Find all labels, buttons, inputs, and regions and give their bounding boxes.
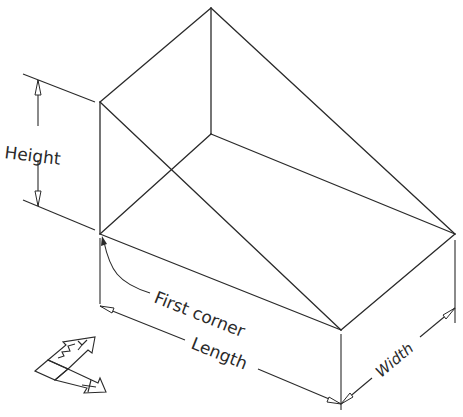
diagram-canvas: Height First corner Length Width	[0, 0, 463, 417]
length-arrow-left-icon	[100, 306, 114, 313]
edge-top-left-to-front-right	[100, 102, 341, 330]
first-corner-leader: First corner	[101, 236, 248, 341]
ucs-x-label	[82, 380, 96, 392]
ucs-y-arrow-icon	[48, 337, 95, 369]
ucs-w-mark	[58, 344, 75, 358]
first-corner-label: First corner	[152, 287, 248, 341]
edge-back-to-right	[211, 134, 455, 234]
height-dimension: Height	[4, 74, 95, 230]
edge-back-to-first-corner	[100, 134, 211, 234]
height-extension-bottom	[23, 200, 95, 230]
ucs-icon	[35, 337, 106, 393]
width-arrow-lower-icon	[341, 393, 353, 404]
height-arrow-down-icon	[35, 191, 41, 206]
edge-apex-to-right	[211, 8, 455, 234]
wedge-solid	[100, 8, 455, 330]
edge-bottom-right	[341, 234, 455, 330]
edge-top-left-to-apex	[100, 8, 211, 102]
width-label: Width	[372, 339, 417, 381]
ucs-origin-box	[35, 360, 68, 380]
width-arrow-upper-icon	[443, 308, 455, 319]
height-label: Height	[4, 142, 63, 169]
height-arrow-up-icon	[35, 80, 41, 95]
ucs-x-arrow-icon	[55, 369, 106, 393]
first-corner-leader-line	[104, 242, 150, 293]
width-dimension: Width	[341, 240, 455, 404]
first-corner-arrow-icon	[101, 236, 107, 246]
height-extension-top	[23, 74, 95, 102]
wedge-diagram: Height First corner Length Width	[0, 0, 463, 417]
length-arrow-right-icon	[327, 397, 341, 404]
ucs-y-label	[78, 340, 87, 350]
